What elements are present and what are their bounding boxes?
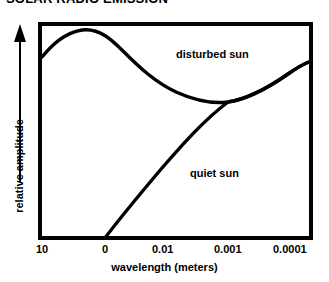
x-axis-label: wavelength (meters) (0, 261, 329, 273)
series-label-disturbed-sun: disturbed sun (176, 48, 249, 60)
solar-radio-emission-figure: SOLAR RADIO EMISSION disturbed sun quiet… (0, 0, 329, 282)
x-tick-label-5: 0.0001 (273, 243, 307, 255)
x-tick-label-3: 0.01 (152, 243, 173, 255)
y-axis-label: relative amplitude (13, 106, 25, 226)
x-tick-label-2: 0 (102, 243, 108, 255)
series-label-quiet-sun: quiet sun (190, 167, 239, 179)
x-tick-label-1: 10 (36, 243, 48, 255)
x-tick-label-4: 0.001 (214, 243, 242, 255)
chart-title: SOLAR RADIO EMISSION (6, 0, 168, 6)
